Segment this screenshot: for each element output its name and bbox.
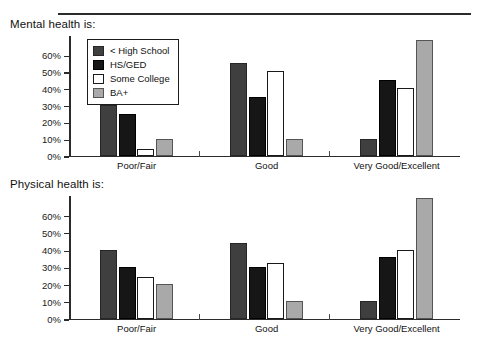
x-axis-category-label: Good xyxy=(255,160,278,171)
chart-legend: < High School HS/GED Some College BA+ xyxy=(87,39,179,105)
legend-label-some-college: Some College xyxy=(110,74,170,84)
bar-very-good-excellent-hs-ged xyxy=(379,80,396,156)
x-axis-group-separator xyxy=(329,314,330,320)
bar-poor-fair-some-college xyxy=(137,277,154,318)
legend-item-lt-high-school: < High School xyxy=(93,44,170,58)
y-axis-tick-label: 40% xyxy=(42,85,61,95)
y-axis-tick-label: 0% xyxy=(47,152,61,162)
bar-very-good-excellent-some-college xyxy=(397,88,414,155)
bar-good-hs-ged xyxy=(249,267,266,319)
bar-poor-fair--high-school xyxy=(100,105,117,155)
bar-good-some-college xyxy=(267,71,284,155)
legend-swatch-icon-some-college xyxy=(93,74,104,84)
y-axis-tick xyxy=(64,319,69,320)
legend-label-hs-ged: HS/GED xyxy=(110,60,146,70)
y-axis-tick-label: 10% xyxy=(42,135,61,145)
y-axis-tick xyxy=(64,156,69,157)
x-axis-group-separator xyxy=(199,151,200,157)
bar-very-good-excellent-ba- xyxy=(416,198,433,319)
legend-item-ba-plus: BA+ xyxy=(93,86,170,100)
y-axis-tick-label: 10% xyxy=(42,298,61,308)
y-axis-tick-label: 60% xyxy=(42,51,61,61)
x-axis-category-label: Poor/Fair xyxy=(117,160,156,171)
y-axis-tick-label: 30% xyxy=(42,102,61,112)
x-axis-category-label: Good xyxy=(255,323,278,334)
bar-very-good-excellent--high-school xyxy=(360,301,377,318)
legend-label-lt-high-school: < High School xyxy=(110,46,169,56)
header-rule xyxy=(58,13,471,15)
bar-very-good-excellent-some-college xyxy=(397,250,414,319)
legend-label-ba-plus: BA+ xyxy=(110,88,128,98)
y-axis-tick-label: 40% xyxy=(42,246,61,256)
bar-good--high-school xyxy=(230,243,247,319)
panel-title-physical-health: Physical health is: xyxy=(10,178,104,190)
bar-good-some-college xyxy=(267,263,284,318)
x-axis-group-separator xyxy=(329,151,330,157)
x-axis-category-label: Very Good/Excellent xyxy=(354,160,440,171)
legend-swatch-icon-lt-high-school xyxy=(93,46,104,56)
bar-poor-fair--high-school xyxy=(100,250,117,319)
bar-group-container xyxy=(69,196,459,319)
bar-very-good-excellent--high-school xyxy=(360,139,377,156)
legend-swatch-icon-ba-plus xyxy=(93,88,104,98)
bar-good--high-school xyxy=(230,63,247,155)
x-axis-category-label: Very Good/Excellent xyxy=(354,323,440,334)
y-axis-tick-label: 20% xyxy=(42,281,61,291)
y-axis-tick-label: 20% xyxy=(42,119,61,129)
legend-item-some-college: Some College xyxy=(93,72,170,86)
bar-poor-fair-ba- xyxy=(156,139,173,156)
bar-good-ba- xyxy=(286,139,303,156)
chart-panel-mental-health: Mental health is: 0%10%20%30%40%50%60% <… xyxy=(0,18,479,178)
y-axis-tick-label: 50% xyxy=(42,68,61,78)
y-axis-tick-label: 30% xyxy=(42,264,61,274)
x-axis-line xyxy=(68,319,460,321)
plot-area-mental-health: 0%10%20%30%40%50%60% < High School HS/GE… xyxy=(69,36,459,157)
bar-good-hs-ged xyxy=(249,97,266,156)
bar-poor-fair-some-college xyxy=(137,149,154,156)
chart-panel-physical-health: Physical health is: 0%10%20%30%40%50%60%… xyxy=(0,178,479,341)
bar-very-good-excellent-hs-ged xyxy=(379,257,396,319)
y-axis-tick-label: 0% xyxy=(47,315,61,325)
x-axis-group-separator xyxy=(199,314,200,320)
legend-swatch-icon-hs-ged xyxy=(93,60,104,70)
x-axis-line xyxy=(68,156,460,158)
bar-good-ba- xyxy=(286,301,303,318)
bar-poor-fair-hs-ged xyxy=(119,114,136,156)
y-axis-tick-label: 60% xyxy=(42,212,61,222)
health-status-figure: Mental health is: 0%10%20%30%40%50%60% <… xyxy=(0,0,479,341)
plot-area-physical-health: 0%10%20%30%40%50%60% Poor/FairGoodVery G… xyxy=(69,196,459,320)
x-axis-category-label: Poor/Fair xyxy=(117,323,156,334)
legend-item-hs-ged: HS/GED xyxy=(93,58,170,72)
bar-poor-fair-hs-ged xyxy=(119,267,136,319)
bar-very-good-excellent-ba- xyxy=(416,40,433,156)
y-axis-tick-label: 50% xyxy=(42,229,61,239)
panel-title-mental-health: Mental health is: xyxy=(10,18,95,30)
bar-poor-fair-ba- xyxy=(156,284,173,318)
